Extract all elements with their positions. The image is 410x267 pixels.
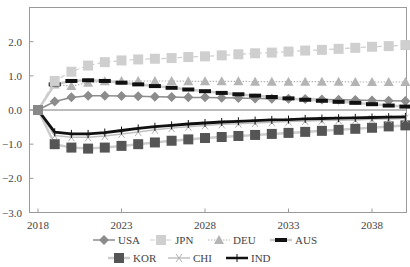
legend-item-jpn: JPN [150,234,193,246]
y-tick-label: 0.0 [8,104,22,116]
y-tick-label: −3.0 [2,207,22,219]
y-tick-label: −2.0 [2,172,22,184]
legend-label: DEU [233,234,256,246]
legend-label: JPN [175,234,193,246]
line-chart: 2.01.00.0−1.0−2.0−3.0 201820232028203320… [0,0,410,267]
x-tick-label: 2028 [194,219,217,231]
legend-label: CHI [193,252,212,264]
legend-label: USA [118,234,140,246]
x-tick-label: 2033 [278,219,301,231]
x-tick-label: 2038 [361,219,384,231]
legend-label: KOR [133,252,157,264]
legend-item-kor: KOR [108,252,157,264]
y-tick-label: 1.0 [8,70,22,82]
x-tick-label: 2018 [27,219,50,231]
legend-item-chi: CHI [168,252,212,264]
x-tick-label: 2023 [111,219,134,231]
legend-label: AUS [295,234,317,246]
legend: USAJPNDEUAUSKORCHIIND [93,234,317,264]
origin-marker [33,105,43,115]
legend-item-deu: DEU [208,234,256,246]
y-tick-label: −1.0 [2,138,22,150]
legend-item-usa: USA [93,234,140,246]
legend-label: IND [251,252,271,264]
y-axis: 2.01.00.0−1.0−2.0−3.0 [2,36,33,219]
legend-item-ind: IND [226,252,271,264]
legend-item-aus: AUS [270,234,317,246]
y-tick-label: 2.0 [8,36,22,48]
